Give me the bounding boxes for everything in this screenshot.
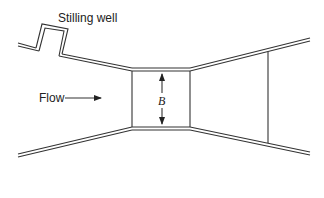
flume-diagram: B Flow Stilling well — [0, 0, 324, 198]
flow-label: Flow — [39, 91, 65, 105]
upper-diverging-wall — [190, 38, 310, 71]
stilling-well-label: Stilling well — [58, 11, 117, 25]
lower-converging-wall — [18, 127, 132, 157]
throat-top-wall — [132, 68, 190, 71]
upper-converging-wall — [18, 43, 132, 71]
throat-bottom-wall — [132, 127, 190, 130]
stilling-well — [36, 24, 68, 56]
throat-width-label: B — [158, 94, 166, 108]
lower-diverging-wall — [190, 127, 310, 155]
